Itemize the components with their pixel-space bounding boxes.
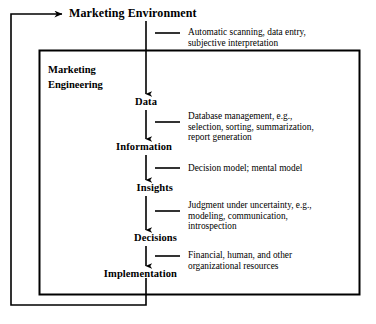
annotation-database: Database management, e.g., selection, so… xyxy=(188,111,314,143)
annotation-scanning: Automatic scanning, data entry, subjecti… xyxy=(188,27,306,48)
annotation-judgment: Judgment under uncertainty, e.g., modeli… xyxy=(188,200,312,232)
feedback-loop-arrow xyxy=(11,14,146,305)
stage-label-insights: Insights xyxy=(60,182,173,193)
annotation-resources: Financial, human, and other organization… xyxy=(188,250,292,271)
stage-label-implementation: Implementation xyxy=(36,268,177,279)
stage-label-data: Data xyxy=(60,96,157,107)
annotation-decision-model: Decision model; mental model xyxy=(188,163,302,174)
stage-label-decisions: Decisions xyxy=(60,232,177,243)
page-title: Marketing Environment xyxy=(69,6,197,21)
marketing-engineering-box-title: Marketing Engineering xyxy=(48,62,103,92)
stage-label-information: Information xyxy=(60,141,172,152)
marketing-engineering-diagram: Marketing Environment Marketing Engineer… xyxy=(0,0,376,324)
